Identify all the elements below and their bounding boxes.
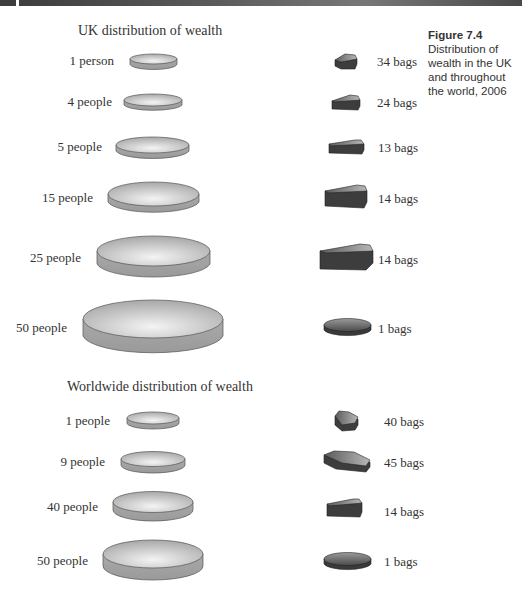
header-divider	[16, 0, 19, 6]
wealth-wedge-icon	[330, 93, 362, 113]
wealth-coin-icon	[323, 551, 373, 573]
wealth-wedge-icon	[327, 139, 367, 157]
header-bar	[0, 0, 522, 6]
world-people-label: 1 people	[66, 413, 110, 429]
wealth-wedge-icon	[323, 183, 371, 211]
caption-line: the world, 2006	[428, 84, 522, 98]
uk-people-label: 4 people	[68, 94, 112, 110]
population-disc-icon	[126, 410, 181, 432]
uk-bags-label: 1 bags	[378, 321, 412, 337]
uk-people-label: 15 people	[42, 190, 93, 206]
uk-people-label: 25 people	[30, 250, 81, 266]
population-disc-icon	[129, 53, 179, 71]
wealth-wedge-icon	[333, 53, 359, 71]
world-bags-label: 1 bags	[384, 554, 418, 570]
uk-people-label: 50 people	[16, 320, 67, 336]
uk-bags-label: 14 bags	[378, 191, 418, 207]
world-bags-label: 45 bags	[384, 455, 424, 471]
uk-people-label: 5 people	[58, 139, 102, 155]
world-people-label: 9 people	[61, 454, 105, 470]
uk-bags-label: 14 bags	[378, 252, 418, 268]
population-disc-icon	[115, 136, 191, 162]
wealth-coin-icon	[323, 317, 373, 339]
uk-bags-label: 13 bags	[378, 140, 418, 156]
figure-number: Figure 7.4	[428, 28, 522, 42]
uk-people-label: 1 person	[70, 53, 114, 69]
population-disc-icon	[120, 450, 187, 476]
population-disc-icon	[107, 180, 201, 217]
world-people-label: 40 people	[47, 499, 98, 515]
wealth-wedge-icon	[333, 410, 361, 434]
wealth-wedge-icon	[318, 243, 378, 273]
population-disc-icon	[102, 539, 205, 583]
caption-line: and throughout	[428, 70, 522, 84]
world-section-title: Worldwide distribution of wealth	[67, 379, 253, 395]
uk-bags-label: 34 bags	[377, 54, 417, 70]
population-disc-icon	[123, 93, 184, 114]
world-bags-label: 40 bags	[384, 414, 424, 430]
population-disc-icon	[96, 234, 212, 282]
wealth-wedge-icon	[322, 450, 374, 476]
uk-section-title: UK distribution of wealth	[78, 23, 222, 39]
population-disc-icon	[82, 298, 225, 358]
caption-line: Distribution of	[428, 42, 522, 56]
population-disc-icon	[112, 490, 195, 524]
world-bags-label: 14 bags	[384, 504, 424, 520]
world-people-label: 50 people	[37, 553, 88, 569]
wealth-wedge-icon	[325, 498, 365, 520]
caption-line: wealth in the UK	[428, 56, 522, 70]
figure-caption: Figure 7.4 Distribution of wealth in the…	[428, 28, 522, 98]
uk-bags-label: 24 bags	[377, 95, 417, 111]
